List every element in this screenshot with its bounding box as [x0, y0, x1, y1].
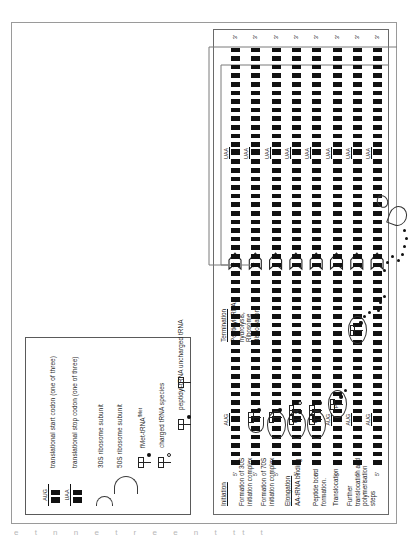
mrna-segment [292, 48, 301, 53]
mrna-segment [373, 185, 382, 190]
mrna-segment [333, 443, 342, 448]
mrna-segment [292, 125, 301, 130]
mrna-stop-codon-label: UAA [304, 147, 311, 159]
mrna-segment [333, 134, 342, 139]
mrna-segment [312, 392, 321, 397]
mrna-strand-row: 5'3'UAA [272, 41, 281, 465]
mrna-segment [251, 400, 260, 405]
mrna-segment [251, 289, 260, 294]
mrna-segment [312, 125, 321, 130]
mrna-segment [231, 211, 240, 216]
mrna-segment [312, 211, 321, 216]
mrna-segment [353, 160, 362, 165]
mrna-codon-block [373, 416, 382, 422]
mrna-segment [251, 48, 260, 53]
mrna-segment [272, 443, 281, 448]
mrna-segment [333, 349, 342, 354]
mrna-segment [353, 426, 362, 431]
mrna-segment [292, 82, 301, 87]
mrna-segment [353, 177, 362, 182]
mrna-segment [373, 263, 382, 268]
mrna-segment [353, 409, 362, 414]
mrna-segment [272, 254, 281, 259]
mrna-segment [292, 263, 301, 268]
mrna-segment [272, 461, 281, 466]
mrna-segment [373, 349, 382, 354]
mrna-segment [251, 168, 260, 173]
mrna-segment [272, 211, 281, 216]
mrna-segment [272, 246, 281, 251]
mrna-segment [292, 194, 301, 199]
mrna-segment [251, 366, 260, 371]
mrna-segment [251, 461, 260, 466]
mrna-segment [373, 117, 382, 122]
mrna-segment [231, 228, 240, 233]
mrna-segment [353, 185, 362, 190]
mrna-segment [251, 228, 260, 233]
mrna-segment [272, 332, 281, 337]
mrna-segment [373, 99, 382, 104]
mrna-segment [231, 375, 240, 380]
ribosome-50s-released [386, 204, 410, 229]
mrna-segment [333, 357, 342, 362]
p-site-label: P [354, 331, 359, 334]
mrna-segment [312, 220, 321, 225]
mrna-segment [373, 220, 382, 225]
mrna-segment [272, 340, 281, 345]
mrna-5prime-label: 5' [374, 472, 380, 476]
mrna-segment [251, 211, 260, 216]
mrna-segment [312, 340, 321, 345]
mrna-segment [333, 340, 342, 345]
mrna-segment [231, 177, 240, 182]
mrna-segment [251, 375, 260, 380]
mrna-segment [292, 56, 301, 61]
mrna-segment [231, 366, 240, 371]
mrna-segment [231, 443, 240, 448]
mrna-segment [251, 160, 260, 165]
mrna-segment [272, 108, 281, 113]
mrna-segment [353, 91, 362, 96]
mrna-segment [312, 228, 321, 233]
mrna-segment [231, 323, 240, 328]
mrna-segment [292, 306, 301, 311]
mrna-segment [231, 142, 240, 147]
mrna-segment [353, 168, 362, 173]
mrna-segment [292, 280, 301, 285]
mrna-segment [292, 117, 301, 122]
mrna-segment [292, 108, 301, 113]
mrna-segment [353, 237, 362, 242]
mrna-segment [333, 228, 342, 233]
polypeptide-dot [368, 311, 371, 314]
mrna-segment [333, 332, 342, 337]
p-site-label: P [273, 418, 278, 421]
mrna-segment [312, 366, 321, 371]
mrna-segment [292, 228, 301, 233]
mrna-segment [251, 452, 260, 457]
mrna-segment [312, 461, 321, 466]
mrna-segment [373, 409, 382, 414]
mrna-segment [292, 220, 301, 225]
mrna-stop-codon-label: UAA [345, 147, 352, 159]
mrna-segment [292, 99, 301, 104]
mrna-segment [373, 134, 382, 139]
polypeptide-dot [403, 245, 406, 248]
mrna-stop-codon-label: UAA [223, 147, 230, 159]
mrna-segment [353, 117, 362, 122]
mrna-segment [231, 254, 240, 259]
mrna-segment [312, 452, 321, 457]
mrna-segment [251, 340, 260, 345]
mrna-segment [251, 74, 260, 79]
mrna-segment [231, 409, 240, 414]
mrna-segment [333, 99, 342, 104]
mrna-segment [272, 366, 281, 371]
mrna-segment [272, 220, 281, 225]
mrna-segment [231, 220, 240, 225]
mrna-segment [251, 323, 260, 328]
mrna-segment [353, 142, 362, 147]
mrna-segment [272, 48, 281, 53]
mrna-segment [251, 271, 260, 276]
mrna-segment [353, 194, 362, 199]
mrna-stop-codon-label: UAA [284, 147, 291, 159]
mrna-segment [353, 108, 362, 113]
mrna-segment [292, 177, 301, 182]
